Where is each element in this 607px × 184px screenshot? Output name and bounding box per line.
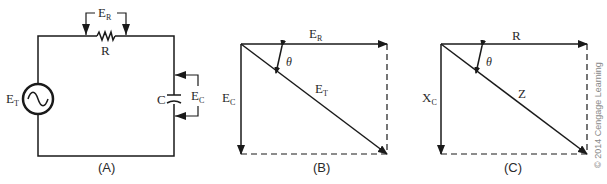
er-label: ER <box>98 5 112 22</box>
ec-phasor-label: EC <box>222 90 235 107</box>
er-arrow-right-icon <box>122 24 130 35</box>
panel-a-caption: (A) <box>98 160 115 175</box>
z-vector <box>441 44 587 154</box>
theta-label: θ <box>486 55 492 69</box>
panel-b-caption: (B) <box>313 160 330 175</box>
theta-label: θ <box>286 55 292 69</box>
angle-arrow-icon <box>276 46 282 73</box>
et-vector <box>241 44 387 154</box>
resistor-icon <box>97 32 115 40</box>
panel-c-impedance-phasor: θ R XC Z (C) <box>422 28 587 175</box>
rc-circuit-figure: ET R ER C EC (A) <box>0 0 607 184</box>
z-phasor-label: Z <box>518 86 526 101</box>
capacitor-icon <box>167 95 181 103</box>
capacitor-label: C <box>157 92 166 107</box>
panel-a-circuit: ET R ER C EC (A) <box>6 5 204 175</box>
resistor-label: R <box>101 43 110 58</box>
copyright-notice: © 2014 Cengage Learning <box>593 62 603 168</box>
et-phasor-label: ET <box>315 81 328 98</box>
ac-source-icon <box>23 84 53 114</box>
er-phasor-label: ER <box>309 26 323 43</box>
r-phasor-label: R <box>512 28 521 43</box>
ec-arrow-top-icon <box>175 71 186 79</box>
angle-arrow-icon <box>476 46 482 73</box>
ec-arrow-bottom-icon <box>175 112 186 120</box>
xc-phasor-label: XC <box>422 90 437 107</box>
ec-label: EC <box>191 88 204 105</box>
panel-b-voltage-phasor: θ ER EC ET (B) <box>222 26 387 175</box>
er-arrow-left-icon <box>82 24 90 35</box>
panel-c-caption: (C) <box>504 160 522 175</box>
source-label: ET <box>6 91 19 108</box>
